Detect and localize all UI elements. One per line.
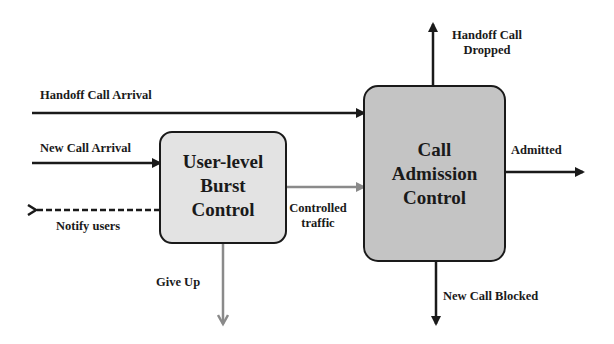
burst-line-2: Burst [160, 174, 286, 198]
cac-label: Call Admission Control [364, 138, 505, 210]
new-arrival-label: New Call Arrival [40, 141, 131, 156]
handoff-dropped-label: Handoff Call Dropped [445, 28, 529, 58]
new-blocked-label: New Call Blocked [443, 289, 538, 304]
give-up-label: Give Up [156, 275, 200, 290]
handoff-arrival-label: Handoff Call Arrival [40, 88, 152, 103]
cac-line-1: Call [364, 138, 505, 162]
controlled-line-2: traffic [287, 216, 349, 231]
notify-users-label: Notify users [56, 219, 120, 234]
controlled-traffic-label: Controlled traffic [287, 201, 349, 231]
dropped-line-2: Dropped [445, 43, 529, 58]
admitted-label: Admitted [511, 143, 562, 158]
burst-control-label: User-level Burst Control [160, 150, 286, 222]
controlled-line-1: Controlled [287, 201, 349, 216]
burst-line-1: User-level [160, 150, 286, 174]
cac-line-2: Admission [364, 162, 505, 186]
dropped-line-1: Handoff Call [445, 28, 529, 43]
burst-line-3: Control [160, 198, 286, 222]
cac-line-3: Control [364, 186, 505, 210]
